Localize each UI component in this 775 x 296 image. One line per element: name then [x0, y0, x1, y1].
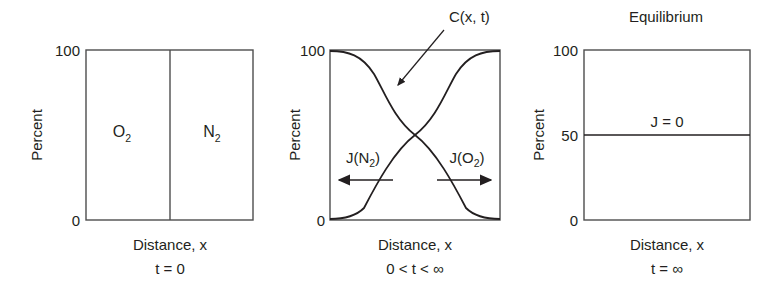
y-tick-100: 100	[55, 42, 80, 59]
region-label-n2-text: N	[203, 123, 215, 140]
region-label-o2: O2	[113, 123, 131, 144]
zero-flux-label: J = 0	[651, 113, 684, 130]
y-axis-label: Percent	[28, 108, 45, 161]
curve-label: C(x, t)	[449, 8, 490, 25]
x-axis-label: Distance, x	[630, 236, 705, 253]
region-label-o2-text: O	[113, 123, 125, 140]
y-tick-100: 100	[300, 42, 325, 59]
flux-label-n2: J(N2)	[346, 149, 380, 169]
curve-label-leader	[398, 30, 444, 85]
panel-transient: Percent 100 0 C(x, t)	[262, 0, 520, 296]
flux-label-o2-tail: )	[480, 149, 485, 166]
panel-caption: 0 < t < ∞	[386, 260, 444, 277]
panel-initial: Percent 100 0 O2 N2 Distance, x t = 0	[0, 0, 262, 296]
diffusion-figure: Percent 100 0 O2 N2 Distance, x t = 0 Pe…	[0, 0, 775, 296]
panel-equilibrium: Equilibrium Percent 100 50 0 J = 0 Dista…	[520, 0, 775, 296]
panel-equilibrium-plot: Equilibrium Percent 100 50 0 J = 0 Dista…	[520, 0, 775, 296]
panel-caption: t = 0	[155, 260, 185, 277]
x-axis-label: Distance, x	[378, 236, 453, 253]
panel-caption: t = ∞	[651, 260, 683, 277]
x-axis-label: Distance, x	[133, 236, 208, 253]
panel-initial-plot: Percent 100 0 O2 N2 Distance, x t = 0	[0, 0, 262, 296]
panel-title: Equilibrium	[629, 8, 703, 25]
y-axis-label: Percent	[286, 108, 303, 161]
y-tick-0: 0	[317, 212, 325, 229]
y-tick-100: 100	[553, 42, 578, 59]
region-label-n2: N2	[203, 123, 221, 144]
y-axis-label: Percent	[530, 108, 547, 161]
panel-transient-plot: Percent 100 0 C(x, t)	[262, 0, 520, 296]
y-tick-0: 0	[72, 212, 80, 229]
concentration-curve-increasing	[330, 51, 500, 219]
flux-label-o2-head: J(O	[449, 149, 473, 166]
flux-label-n2-tail: )	[375, 149, 380, 166]
region-label-o2-sub: 2	[125, 132, 131, 144]
region-label-n2-sub: 2	[215, 132, 221, 144]
y-tick-50: 50	[561, 127, 578, 144]
flux-label-n2-head: J(N	[346, 149, 369, 166]
flux-label-o2: J(O2)	[449, 149, 484, 169]
y-tick-0: 0	[570, 212, 578, 229]
